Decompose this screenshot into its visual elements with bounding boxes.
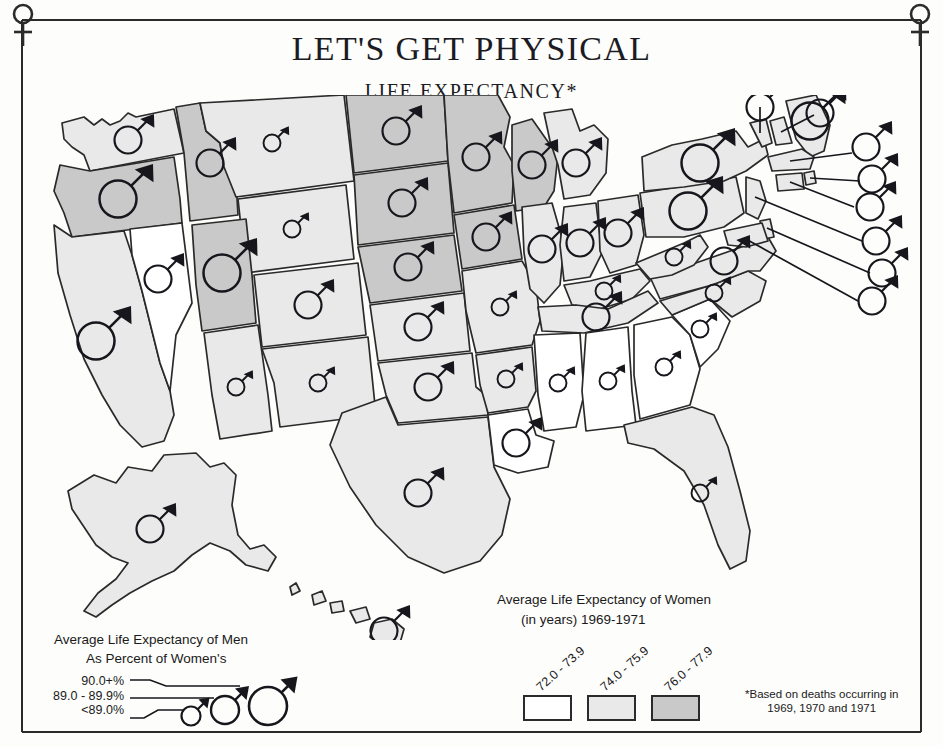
us-choropleth-map [24,95,919,640]
legend-women-label-1: 74.0 - 75.9 [598,644,652,694]
footnote: *Based on deaths occurring in 1969, 1970… [745,687,898,715]
state-ok [378,353,488,423]
legend-men-caption-1: Average Life Expectancy of Men [54,632,248,647]
mars-symbol-vt [747,95,787,121]
page-title: LET'S GET PHYSICAL [0,30,943,68]
state-ut [192,219,256,331]
state-ne [358,235,462,303]
state-ak [68,453,276,617]
leader-line-ri [810,178,860,181]
mars-symbol-ma [853,121,893,160]
state-ar [476,347,536,413]
legend-women-label-2: 76.0 - 77.9 [662,644,716,694]
state-ks [370,293,470,361]
state-fl [624,407,750,569]
legend-women-swatch-2 [651,695,700,721]
mars-symbol-md [859,275,899,314]
state-wy [238,185,354,273]
state-mn [444,95,514,213]
legend-women-label-0: 72.0 - 73.9 [534,644,588,694]
legend-men: Average Life Expectancy of Men As Percen… [40,630,310,735]
legend-men-key-1: 89.0 - 89.9% [46,689,124,704]
legend-men-key-0: 90.0+% [46,674,124,689]
legend-men-key-2: <89.0% [46,703,124,718]
legend-men-caption-2: As Percent of Women's [86,651,226,666]
state-ms [534,333,584,431]
leader-line-de [767,228,870,273]
state-tx [330,397,510,573]
state-vt [750,119,772,147]
frame-top-rule [22,19,921,21]
state-nd [346,95,448,173]
legend-men-symbol-scale [128,668,308,730]
legend-women-caption-1: Average Life Expectancy of Women [497,592,711,607]
state-co [254,263,366,347]
state-ma [768,149,814,171]
state-nh [770,117,792,145]
legend-women-caption-2: (in years) 1969-1971 [521,612,646,627]
legend-women-swatch-0 [523,695,572,721]
infographic-page: LET'S GET PHYSICAL LIFE EXPECTANCY* Aver… [0,0,943,747]
frame-left-rule [21,20,23,732]
state-sd [354,163,454,245]
state-al [582,327,636,431]
leader-line-ct [790,182,854,207]
legend-women-swatch-1 [587,695,636,721]
legend-women: Average Life Expectancy of Women (in yea… [497,592,927,737]
